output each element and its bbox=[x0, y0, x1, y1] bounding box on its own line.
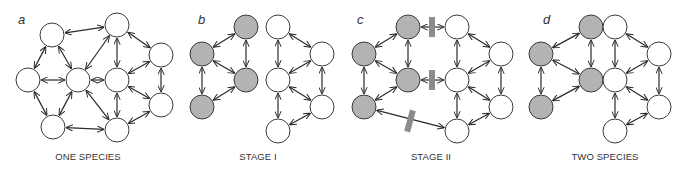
migration-arrow-w3-w4 bbox=[627, 87, 648, 100]
panel-letter: a bbox=[18, 12, 25, 27]
migration-arrow-n5-n9 bbox=[86, 91, 108, 120]
migration-arrow-n4-n8 bbox=[34, 92, 46, 115]
population-node-white bbox=[41, 115, 65, 139]
population-node-white bbox=[40, 23, 64, 47]
migration-arrow-w1-w2 bbox=[627, 34, 648, 47]
panel-b-stage-one: bSTAGE I bbox=[190, 12, 334, 162]
migration-arrow-n1-n5 bbox=[59, 47, 71, 69]
population-node-gray bbox=[579, 68, 603, 92]
gene-flow-barrier bbox=[429, 70, 435, 90]
migration-arrow-w2-w3 bbox=[627, 61, 648, 73]
population-node-white bbox=[310, 95, 334, 119]
migration-arrow-g2-g3 bbox=[553, 60, 579, 74]
migration-arrow-n8-n9 bbox=[67, 128, 104, 130]
population-node-gray bbox=[234, 15, 258, 39]
migration-arrow-w4-w5 bbox=[290, 114, 310, 125]
population-node-white bbox=[647, 95, 671, 119]
panel-caption: STAGE I bbox=[239, 151, 276, 162]
population-node-white bbox=[149, 43, 173, 67]
migration-arrow-g1-g2 bbox=[376, 34, 397, 47]
population-node-white bbox=[266, 68, 290, 92]
migration-arrow-w3-w4 bbox=[290, 87, 311, 100]
migration-arrow-g3-g4 bbox=[376, 87, 397, 100]
panel-caption: TWO SPECIES bbox=[571, 151, 638, 162]
migration-arrow-g1-g2 bbox=[214, 34, 235, 47]
population-node-gray bbox=[352, 42, 376, 66]
population-node-white bbox=[489, 42, 513, 66]
panel-a-one-species: aONE SPECIES bbox=[16, 12, 173, 162]
panel-c-stage-two: cSTAGE II bbox=[352, 12, 513, 162]
migration-arrow-n2-n3 bbox=[128, 33, 150, 48]
population-node-white bbox=[105, 68, 129, 92]
panel-caption: STAGE II bbox=[411, 151, 451, 162]
migration-arrow-n7-n9 bbox=[129, 112, 150, 124]
panel-d-two-species: dTWO SPECIES bbox=[529, 12, 671, 162]
population-node-gray bbox=[579, 15, 603, 39]
panel-letter: b bbox=[198, 12, 205, 27]
migration-arrow-n1-n4 bbox=[34, 47, 45, 68]
population-node-gray bbox=[396, 68, 420, 92]
migration-arrow-w3-w4 bbox=[469, 87, 490, 100]
population-node-white bbox=[489, 95, 513, 119]
gene-flow-barrier bbox=[404, 110, 415, 133]
population-node-white bbox=[445, 68, 469, 92]
migration-arrow-g3-g4 bbox=[214, 87, 235, 100]
panel-caption: ONE SPECIES bbox=[55, 151, 121, 162]
migration-arrow-w4-w5 bbox=[469, 114, 489, 125]
speciation-diagram: aONE SPECIES bSTAGE I cSTAGE II dTWO SPE… bbox=[0, 0, 680, 169]
migration-arrow-n6-n7 bbox=[129, 87, 150, 99]
population-node-white bbox=[310, 42, 334, 66]
migration-arrow-w1-w2 bbox=[469, 34, 490, 47]
migration-arrow-g3-g4 bbox=[553, 86, 579, 100]
migration-arrow-n2-n5 bbox=[86, 36, 109, 69]
population-node-white bbox=[445, 15, 469, 39]
population-node-gray bbox=[234, 68, 258, 92]
population-node-white bbox=[66, 68, 90, 92]
migration-arrow-w1-w2 bbox=[290, 34, 311, 47]
migration-arrow-g1-g2 bbox=[553, 33, 579, 47]
population-node-white bbox=[149, 93, 173, 117]
migration-arrow-g2-g3 bbox=[376, 61, 397, 73]
population-node-gray bbox=[529, 42, 553, 66]
population-node-white bbox=[266, 119, 290, 143]
panel-letter: c bbox=[357, 12, 364, 27]
gene-flow-barrier bbox=[429, 17, 435, 37]
migration-arrow-n3-n6 bbox=[129, 62, 150, 74]
population-node-white bbox=[16, 68, 40, 92]
migration-arrow-w2-w3 bbox=[469, 61, 490, 73]
population-node-white bbox=[105, 13, 129, 37]
population-node-white bbox=[603, 68, 627, 92]
population-node-white bbox=[647, 42, 671, 66]
population-node-gray bbox=[352, 95, 376, 119]
migration-arrow-g2-g3 bbox=[214, 61, 235, 73]
population-node-white bbox=[603, 15, 627, 39]
population-node-gray bbox=[529, 95, 553, 119]
migration-arrow-w4-w5 bbox=[627, 114, 647, 125]
population-node-white bbox=[603, 119, 627, 143]
population-node-white bbox=[266, 15, 290, 39]
population-node-gray bbox=[396, 15, 420, 39]
migration-arrow-w2-w3 bbox=[290, 61, 311, 73]
panel-letter: d bbox=[543, 12, 551, 27]
population-node-gray bbox=[190, 42, 214, 66]
population-node-white bbox=[445, 119, 469, 143]
population-node-white bbox=[105, 118, 129, 142]
population-node-gray bbox=[190, 95, 214, 119]
migration-arrow-n5-n8 bbox=[59, 92, 71, 115]
migration-arrow-n1-n2 bbox=[65, 27, 103, 33]
